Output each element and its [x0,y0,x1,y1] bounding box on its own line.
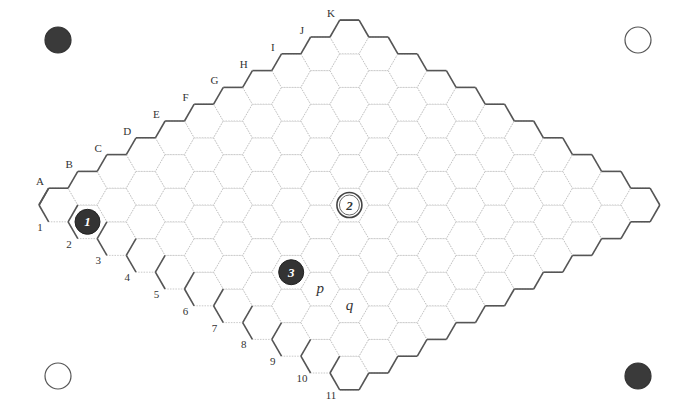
hex-board: ABCDEFGHIJK1234567891011123pq [0,0,689,416]
row-label-1: 1 [37,221,43,233]
cell-mark-p: p [316,280,325,296]
hex-board-diagram: ABCDEFGHIJK1234567891011123pq [0,0,689,416]
row-label-9: 9 [270,355,276,367]
corner-disc-top-left [45,27,71,53]
stone-3-black: 3 [279,260,304,285]
row-label-6: 6 [183,305,189,317]
column-label-C: C [95,142,102,154]
row-label-2: 2 [66,238,72,250]
row-label-5: 5 [154,288,160,300]
stone-2-white: 2 [337,193,362,218]
column-label-D: D [123,125,131,137]
row-label-8: 8 [241,338,247,350]
column-label-I: I [271,41,275,53]
row-label-3: 3 [95,254,101,266]
stone-1-black: 1 [75,209,100,234]
corner-disc-top-right [625,27,651,53]
cell-mark-q: q [346,297,354,313]
column-label-E: E [153,108,160,120]
stone-number: 2 [345,198,353,213]
row-label-7: 7 [212,322,218,334]
column-label-J: J [300,24,305,36]
column-label-A: A [36,175,44,187]
stone-number: 1 [84,214,91,229]
row-label-11: 11 [326,389,337,401]
row-label-10: 10 [296,372,308,384]
column-label-B: B [65,158,72,170]
column-label-H: H [240,58,248,70]
column-label-K: K [327,7,335,19]
column-label-G: G [211,74,219,86]
corner-disc-bottom-left [45,363,71,389]
column-label-F: F [182,91,188,103]
stone-number: 3 [287,265,295,280]
row-label-4: 4 [125,271,131,283]
corner-disc-bottom-right [625,363,651,389]
